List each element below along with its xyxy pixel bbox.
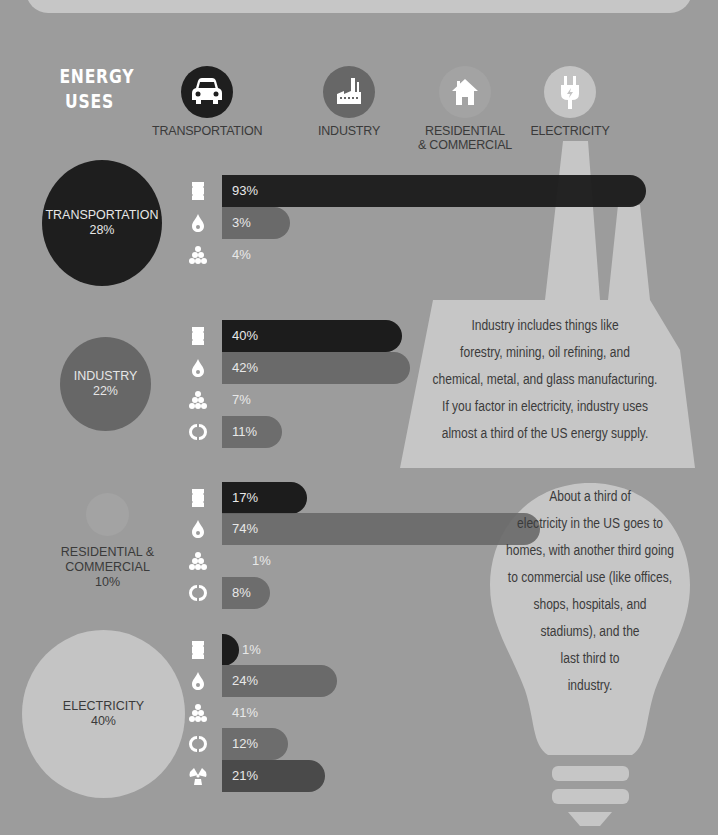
- recycle-icon: [188, 422, 208, 442]
- bar: [222, 175, 646, 207]
- industry-note: Industry includes things like forestry, …: [429, 312, 661, 447]
- gas-drop-icon: [188, 358, 208, 378]
- oil-barrel-icon: [188, 181, 208, 201]
- recycle-icon: [188, 583, 208, 603]
- coal-pile-icon: [188, 245, 208, 265]
- electricity-note: About a third of electricity in the US g…: [495, 483, 684, 699]
- gas-drop-icon: [188, 671, 208, 691]
- sector-circle-electricity: ELECTRICITY40%: [22, 630, 185, 798]
- bar: [222, 513, 540, 545]
- recycle-icon: [188, 734, 208, 754]
- sector-circle-transportation: TRANSPORTATION28%: [42, 160, 162, 286]
- nuclear-icon: [188, 766, 208, 786]
- oil-barrel-icon: [188, 488, 208, 508]
- coal-pile-icon: [188, 551, 208, 571]
- sector-circle-residential-commercial: [86, 493, 129, 536]
- coal-pile-icon: [188, 703, 208, 723]
- sector-label-residential-commercial: RESIDENTIAL & COMMERCIAL 10%: [40, 545, 175, 590]
- sector-circle-industry: INDUSTRY22%: [60, 337, 151, 431]
- gas-drop-icon: [188, 519, 208, 539]
- oil-barrel-icon: [188, 326, 208, 346]
- gas-drop-icon: [188, 213, 208, 233]
- coal-pile-icon: [188, 390, 208, 410]
- oil-barrel-icon: [188, 640, 208, 660]
